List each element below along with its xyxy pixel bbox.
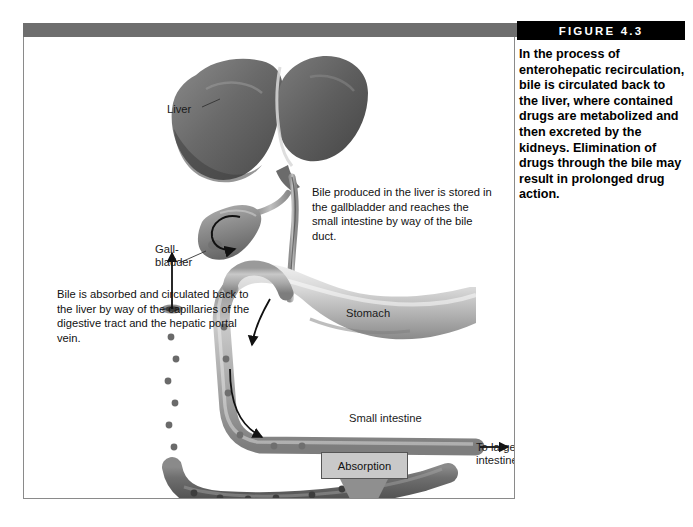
anatomy-illustration [24,37,514,498]
diagram-frame: Liver Gall- bladder Stomach Small intest… [23,37,515,499]
liver-organ [172,56,368,191]
label-to-large-intestine: To large intestine [476,441,515,468]
diagram-canvas: Liver Gall- bladder Stomach Small intest… [24,37,514,498]
figure-header-bar: FIGURE 4.3 [517,21,685,40]
annotation-bile-duct: Bile produced in the liver is stored in … [312,185,492,243]
bile-flow-arrow [252,299,270,345]
label-small-intestine: Small intestine [349,412,422,426]
absorption-label: Absorption [338,460,392,472]
absorption-box: Absorption [321,452,408,479]
figure-number-label: FIGURE 4.3 [559,25,644,37]
label-gallbladder: Gall- bladder [155,243,192,269]
annotation-bile-absorbed: Bile is absorbed and circulated back to … [57,287,252,345]
label-stomach: Stomach [346,307,390,321]
top-gray-bar [23,23,517,37]
figure-caption-text: In the process of enterohepatic recircul… [519,47,687,203]
label-liver: Liver [167,103,191,117]
